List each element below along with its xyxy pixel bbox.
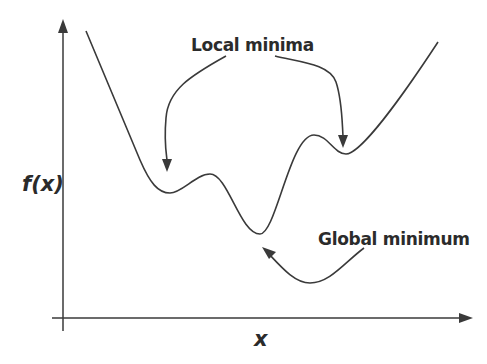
arrowhead-right-icon: [338, 135, 348, 148]
local-minimum-arrow-left: [165, 56, 226, 160]
x-axis-label: x: [253, 327, 269, 351]
arrowhead-global-icon: [262, 247, 276, 259]
local-minimum-arrow-right: [275, 56, 343, 136]
arrowhead-left-icon: [162, 159, 172, 172]
y-axis-arrow-icon: [58, 19, 68, 33]
local-minima-label: Local minima: [191, 35, 314, 55]
global-minimum-label: Global minimum: [318, 229, 470, 249]
x-axis-arrow-icon: [459, 313, 473, 323]
function-curve: [86, 31, 438, 234]
x-axis: [52, 313, 473, 323]
y-axis-label: f(x): [22, 172, 64, 196]
global-minimum-arrow: [268, 248, 364, 283]
function-landscape-diagram: Local minima Global minimum f(x) x: [0, 0, 487, 364]
